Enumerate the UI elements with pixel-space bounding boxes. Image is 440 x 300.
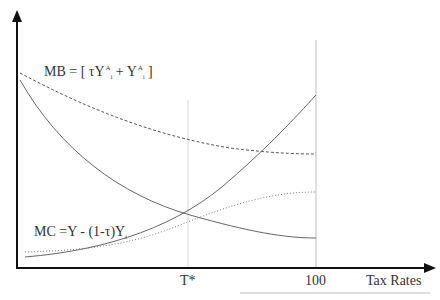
mb-sup1: A (106, 64, 111, 72)
t-star-label: T* (180, 273, 196, 289)
mc-sub: i (125, 234, 127, 240)
mc-curve (25, 192, 316, 252)
hundred-label: 100 (305, 273, 326, 289)
mb-text: MB = [ τY (44, 64, 105, 79)
y-axis-arrow-icon (12, 10, 22, 22)
decreasing-curve (20, 80, 316, 238)
diagram-canvas (0, 0, 440, 300)
x-axis-label: Tax Rates (366, 273, 421, 289)
mc-text: MC =Y - (1-τ)Y (34, 224, 125, 239)
mb-end: ] (145, 64, 153, 79)
mb-label: MB = [ τYAi + YAi ] (44, 64, 153, 80)
mb-mid: + Y (112, 64, 137, 79)
mc-label: MC =Y - (1-τ)Yi (34, 224, 127, 240)
x-axis-arrow-icon (424, 263, 436, 273)
mb-sup2: A (138, 64, 143, 72)
